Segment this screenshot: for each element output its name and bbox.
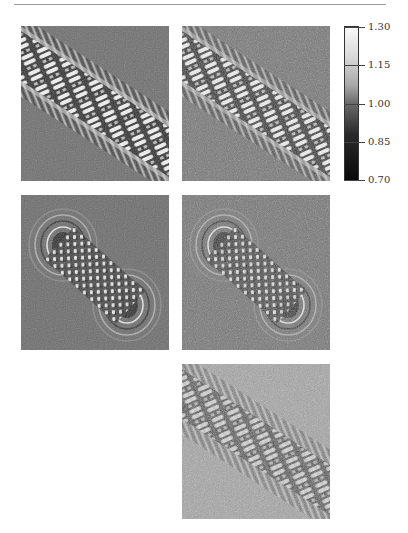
colorbar-tick-3 [344,104,365,105]
panel-3-two-lobe [21,195,169,350]
colorbar-label-2: 1.15 [368,60,390,70]
panel-4-two-lobe-noisy [182,195,330,350]
panel-3-image [21,195,169,350]
colorbar-label-max: 1.30 [368,22,390,32]
panel-4-image [182,195,330,350]
panel-5-diagonal-band-high-noise [182,364,330,519]
panel-1-diagonal-band [21,26,169,181]
colorbar-label-mid: 1.00 [368,99,390,109]
colorbar-tick-2 [344,65,365,66]
colorbar-tick-4 [344,142,365,143]
colorbar-label-4: 0.85 [368,137,390,147]
panel-1-image [21,26,169,181]
colorbar-tick-1 [344,27,365,28]
colorbar-tick-5 [344,180,365,181]
panel-5-image [182,364,330,519]
top-rule [14,4,386,5]
panel-2-image [182,26,330,181]
colorbar-label-min: 0.70 [368,175,390,185]
panel-2-diagonal-band-noisy [182,26,330,181]
